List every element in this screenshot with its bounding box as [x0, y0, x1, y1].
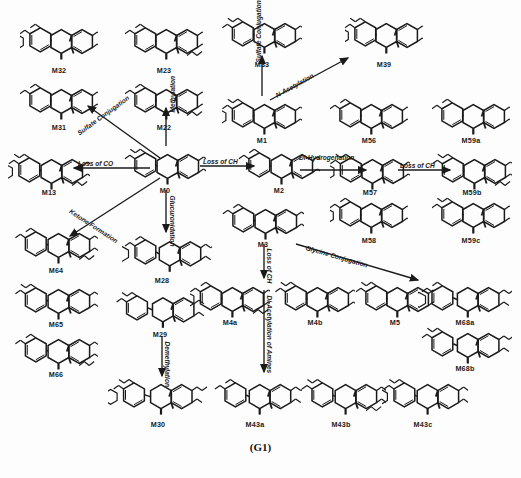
molecule-label-m68a: M68a: [443, 318, 487, 327]
molecule-label-m57: M57: [348, 188, 392, 197]
molecule-label-m43a: M43a: [233, 420, 277, 429]
molecule-structure-m22: [125, 78, 203, 120]
molecule-structure-m59c: [432, 192, 510, 234]
molecule-structure-m66: [14, 328, 98, 370]
molecule-structure-m2: [238, 143, 320, 185]
molecule-label-m0: M0: [143, 186, 187, 195]
molecule-structure-m0: [124, 143, 206, 185]
molecule-structure-m56: [330, 93, 408, 135]
molecule-structure-m30: [108, 372, 208, 416]
molecule-label-m56: M56: [347, 136, 391, 145]
molecule-structure-m39: [345, 12, 423, 54]
molecule-label-m58: M58: [347, 236, 391, 245]
molecule-label-m65: M65: [34, 320, 78, 329]
pathway-figure: M32M23M33M39M31M22M1M56M59aM13M0M2M57M59…: [0, 0, 521, 478]
molecule-label-m3: M3: [241, 240, 285, 249]
molecule-structure-m59b: [432, 148, 512, 190]
molecule-structure-m68a: [418, 276, 512, 318]
arrow-label-e-loss-of-ch-m57: Loss of CH: [400, 162, 435, 169]
molecule-label-m31: M31: [37, 123, 81, 132]
molecule-label-m30: M30: [136, 420, 180, 429]
molecule-structure-m43c: [382, 372, 468, 416]
arrow-label-e-demethylation: Demethylation: [164, 342, 171, 387]
molecule-structure-m33: [222, 12, 302, 54]
molecule-label-m22: M22: [142, 123, 186, 132]
molecule-structure-m43a: [212, 372, 302, 416]
arrow-label-e-glycine-conjugation: Glycine Conjugation: [305, 244, 369, 268]
molecule-label-m13: M13: [27, 188, 71, 197]
molecule-label-m4b: M4b: [293, 318, 337, 327]
molecule-label-m32: M32: [37, 66, 81, 75]
molecule-label-m5: M5: [373, 318, 417, 327]
molecule-label-m28: M28: [140, 276, 184, 285]
arrow-label-e-loss-of-ch-m0-m2: Loss of CH: [203, 158, 238, 165]
arrow-label-e-methylation: Methylation: [169, 76, 176, 113]
molecule-label-m43b: M43b: [319, 420, 363, 429]
arrow-label-e-sulfate-conj-m33: Sulfate Conjugation: [255, 0, 262, 62]
molecule-structure-m59a: [432, 93, 510, 135]
molecule-structure-m4a: [190, 276, 270, 318]
molecule-structure-m32: [20, 18, 98, 60]
molecule-label-m59b: M59b: [450, 188, 494, 197]
molecule-label-m64: M64: [34, 266, 78, 275]
arrow-label-e-loss-of-ch-m3: Loss of CH: [266, 249, 273, 284]
molecule-label-m29: M29: [138, 330, 182, 339]
molecule-label-m39: M39: [362, 60, 406, 69]
molecule-structure-m23: [125, 18, 203, 60]
molecule-label-m4a: M4a: [208, 318, 252, 327]
molecule-structure-m4b: [275, 276, 355, 318]
molecule-label-m66: M66: [34, 370, 78, 379]
molecule-label-m33: M33: [240, 60, 284, 69]
molecule-label-m68b: M68b: [443, 364, 487, 373]
molecule-structure-m68b: [418, 322, 512, 364]
molecule-label-m43c: M43c: [401, 420, 445, 429]
molecule-structure-m65: [14, 278, 98, 320]
molecule-structure-m13: [8, 148, 90, 190]
molecule-label-m23: M23: [142, 66, 186, 75]
arrow-label-e-di-hydrogenation: Di-Hydrogenation: [299, 154, 354, 161]
figure-caption: (G1): [0, 441, 521, 453]
molecule-structure-m31: [20, 78, 98, 120]
molecule-label-m1: M1: [240, 136, 284, 145]
molecule-structure-m64: [14, 222, 98, 264]
arrow-label-e-glucuronidation: Glucuronidation: [169, 196, 176, 247]
molecule-structure-m28: [122, 228, 212, 274]
arrow-label-e-loss-of-co: Loss of CO: [78, 160, 113, 167]
molecule-label-m59c: M59c: [449, 236, 493, 245]
arrow-label-e-di-acetylation-amines: Di-Acetylation of Amines: [266, 296, 273, 374]
molecule-structure-m3: [222, 198, 304, 240]
molecule-structure-m58: [330, 192, 408, 234]
molecule-label-m59a: M59a: [449, 136, 493, 145]
molecule-structure-m1: [222, 93, 302, 135]
molecule-label-m2: M2: [257, 186, 301, 195]
molecule-structure-m43b: [300, 372, 386, 416]
